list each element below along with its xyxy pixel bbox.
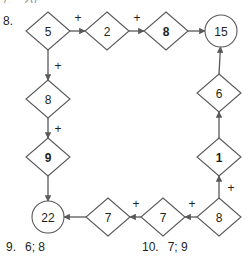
worksheet-page: 7.20 8. 52815892277816 +++++++ 9.6; 8 10… [0, 0, 248, 262]
answer-number: 9. [6, 240, 16, 254]
edge-n6-to-n15 [219, 47, 220, 74]
node-diamond-n1 [197, 138, 241, 176]
node-circle-n15 [205, 15, 237, 47]
answer-item-10: 10.7; 9 [142, 240, 188, 254]
answer-value: 7; 9 [159, 240, 188, 254]
answer-number: 10. [142, 240, 159, 254]
answers-row: 9.6; 8 10.7; 9 [0, 240, 248, 260]
node-diamond-n9 [26, 138, 70, 176]
node-diamond-n8t [144, 12, 188, 50]
answer-item-9: 9.6; 8 [6, 240, 45, 254]
node-diamond-n7b [141, 198, 185, 236]
node-diamond-n8b [197, 198, 241, 236]
node-diamond-n5 [26, 12, 70, 50]
node-circle-n22 [32, 201, 64, 233]
flow-diagram [0, 0, 248, 262]
node-diamond-n2 [85, 12, 129, 50]
node-diamond-n7a [86, 198, 130, 236]
answer-value: 6; 8 [16, 240, 45, 254]
edge-layer [48, 31, 220, 217]
node-diamond-n6 [197, 74, 241, 112]
node-diamond-n8l [26, 80, 70, 118]
node-layer [26, 12, 241, 236]
